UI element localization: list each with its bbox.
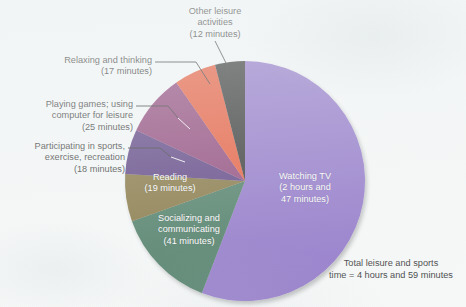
label-relaxing-and-thinking: Relaxing and thinking (17 minutes) (30, 55, 152, 78)
label-total-leisure-sports-time: Total leisure and sports time = 4 hours … (318, 258, 464, 281)
pie-chart: Other leisure activities (12 minutes) Re… (0, 0, 466, 307)
label-reading: Reading (19 minutes) (128, 172, 212, 195)
label-playing-games: Playing games; using computer for leisur… (14, 99, 133, 133)
label-other-leisure-activities: Other leisure activities (12 minutes) (162, 6, 268, 40)
label-watching-tv: Watching TV (2 hours and 47 minutes) (260, 171, 350, 205)
label-socializing-and-communicating: Socializing and communicating (41 minute… (138, 213, 240, 247)
label-participating-in-sports: Participating in sports, exercise, recre… (4, 141, 125, 175)
